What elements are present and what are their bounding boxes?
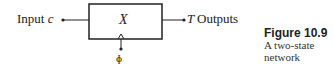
output-terminal-dot bbox=[182, 18, 185, 21]
input-label: Input c bbox=[17, 11, 53, 27]
block-label: X bbox=[119, 12, 128, 28]
figure-title: Figure 10.9 bbox=[264, 26, 327, 40]
figure-caption-line-2: network bbox=[264, 51, 300, 63]
output-label: Outputs bbox=[197, 11, 238, 27]
input-variable: c bbox=[48, 11, 54, 26]
output-variable: T bbox=[187, 11, 194, 27]
clock-symbol: ɸ bbox=[116, 52, 122, 64]
clock-terminal-dot bbox=[119, 47, 122, 50]
figure-caption-line-1: A two-state bbox=[264, 39, 314, 51]
